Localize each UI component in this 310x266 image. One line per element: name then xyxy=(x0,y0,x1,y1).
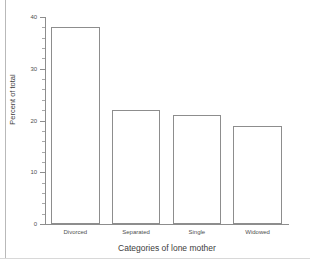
x-axis-title: Categories of lone mother xyxy=(45,243,289,253)
bar-separated xyxy=(112,110,161,224)
x-axis-label-widowed: Widowed xyxy=(227,229,288,236)
plot-area xyxy=(45,17,288,224)
x-axis-label-divorced: Divorced xyxy=(45,229,106,236)
y-axis-tick-label: 0 xyxy=(11,221,37,227)
bar-chart-figure: 010203040 Percent of total DivorcedSepar… xyxy=(0,0,310,266)
x-axis-line xyxy=(45,224,289,225)
x-axis-label-separated: Separated xyxy=(106,229,167,236)
y-axis-major-tick xyxy=(40,224,45,225)
y-axis-tick-label: 10 xyxy=(11,169,37,175)
bar-widowed xyxy=(233,126,282,224)
bar-divorced xyxy=(51,27,100,224)
y-axis-title: Percent of total xyxy=(8,45,17,155)
bar-single xyxy=(173,115,222,224)
x-axis-label-single: Single xyxy=(167,229,228,236)
y-axis-tick-label: 40 xyxy=(11,14,37,20)
